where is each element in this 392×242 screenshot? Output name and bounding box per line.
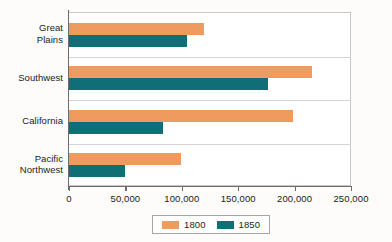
bar-1800-pacific-northwest	[69, 153, 181, 165]
plot-area	[69, 12, 351, 186]
legend-label-1800: 1800	[184, 219, 206, 230]
category-label-pacific-northwest: PacificNorthwest	[0, 153, 63, 176]
chart-legend: 18001850	[152, 215, 270, 234]
bar-1850-great-plains	[69, 35, 187, 47]
category-label-line: Great	[0, 22, 63, 34]
x-axis-tick-label: 50,000	[111, 193, 141, 204]
category-label-line: Northwest	[0, 164, 63, 176]
legend-item-1800[interactable]: 1800	[162, 219, 206, 230]
category-label-line: Southwest	[0, 72, 63, 84]
x-axis-line	[69, 186, 351, 187]
x-axis-tick	[69, 186, 70, 191]
bar-group	[69, 57, 351, 101]
bar-1850-california	[69, 122, 163, 134]
x-axis-tick	[295, 186, 296, 191]
bar-1800-southwest	[69, 66, 312, 78]
category-label-california: California	[0, 115, 63, 127]
bar-chart-figure: GreatPlainsSouthwestCaliforniaPacificNor…	[0, 0, 392, 242]
x-axis-tick-label: 250,000	[333, 193, 368, 204]
category-label-line: California	[0, 115, 63, 127]
x-axis-tick	[125, 186, 126, 191]
bar-1800-california	[69, 110, 293, 122]
x-axis-tick	[238, 186, 239, 191]
category-label-line: Pacific	[0, 153, 63, 165]
bar-1850-southwest	[69, 78, 268, 90]
category-label-line: Plains	[0, 34, 63, 46]
category-label-great-plains: GreatPlains	[0, 22, 63, 45]
legend-item-1850[interactable]: 1850	[217, 219, 261, 230]
category-axis: GreatPlainsSouthwestCaliforniaPacificNor…	[0, 12, 63, 186]
x-axis-tick-label: 100,000	[164, 193, 199, 204]
bar-1850-pacific-northwest	[69, 165, 125, 177]
x-axis-tick-label: 200,000	[277, 193, 312, 204]
legend-label-1850: 1850	[239, 219, 261, 230]
x-axis-tick-label: 0	[66, 193, 71, 204]
legend-swatch-1850	[217, 221, 234, 229]
legend-swatch-1800	[162, 221, 179, 229]
bar-group	[69, 100, 351, 144]
bar-group	[69, 13, 351, 57]
x-axis-tick	[182, 186, 183, 191]
x-axis-tick-label: 150,000	[221, 193, 256, 204]
x-axis-tick	[351, 186, 352, 191]
bar-group	[69, 144, 351, 188]
category-label-southwest: Southwest	[0, 72, 63, 84]
bar-1800-great-plains	[69, 23, 204, 35]
